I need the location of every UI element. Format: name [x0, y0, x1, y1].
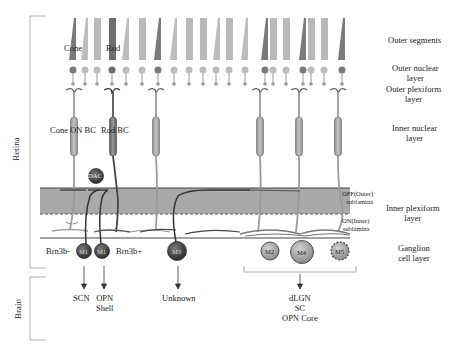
opn-shell-target: OPN Shell — [96, 293, 113, 313]
rod-6 — [270, 18, 277, 60]
m1-pos-label: M1 — [97, 248, 106, 256]
rod-5 — [226, 18, 233, 60]
outer-nuclear-label: Outer nuclear layer — [392, 63, 439, 83]
cone-9 — [299, 18, 306, 60]
cone-7 — [241, 18, 248, 60]
cone-label: Cone — [64, 43, 82, 53]
off-sublamina-label: OFF(Outer) sublamina — [342, 190, 373, 205]
brain-label: Brain — [13, 299, 23, 319]
cone-5 — [170, 18, 177, 60]
inner-plexiform-line1: Inner plexiform — [386, 203, 440, 213]
m4-label: M4 — [297, 249, 306, 257]
rod-9 — [321, 18, 328, 60]
inner-nuclear-line1: Inner nuclear — [392, 123, 437, 133]
retina-diagram: Retina Brain Cone Rod Cone ON BC Rod BC … — [0, 0, 460, 353]
m5-label: M5 — [335, 248, 344, 256]
group-target: dLGN SC OPN Core — [282, 293, 318, 323]
rod-dark — [109, 18, 116, 60]
cone-4 — [154, 18, 161, 60]
scn-target: SCN — [73, 293, 90, 303]
brn3b-neg-label: Brn3b- — [46, 246, 70, 256]
rod-1 — [94, 18, 101, 60]
opn-core-target: OPN Core — [282, 313, 318, 323]
cone-3 — [122, 18, 129, 60]
outer-nuclear-line2: layer — [392, 73, 439, 83]
off-sublamina-line2: sublamina — [342, 198, 373, 206]
rod-4 — [200, 18, 207, 60]
opn-shell-line2: Shell — [96, 303, 113, 313]
m2-label: M2 — [265, 248, 274, 256]
off-sublamina-line1: OFF(Outer) — [342, 190, 373, 198]
ganglion-layer-line2: cell layer — [398, 253, 430, 263]
cone-10 — [338, 18, 345, 60]
cone-on-bc-label: Cone ON BC — [50, 125, 96, 135]
inner-nuclear-line2: layer — [392, 133, 437, 143]
outer-plexiform-line2: layer — [386, 94, 441, 104]
m1-neg-label: M1 — [79, 248, 88, 256]
ganglion-layer-line1: Ganglion — [398, 243, 430, 253]
rod-7 — [283, 18, 290, 60]
rod-8 — [308, 18, 315, 60]
inner-plexiform-label: Inner plexiform layer — [386, 203, 440, 223]
brn3b-pos-label: Brn3b+ — [116, 246, 142, 256]
rod-3 — [186, 18, 193, 60]
group-bracket — [244, 266, 356, 272]
sc-target: SC — [282, 303, 318, 313]
outer-plexiform-line1: Outer plexiform — [386, 84, 441, 94]
outer-nuclear-line1: Outer nuclear — [392, 63, 439, 73]
on-sublamina-line2: sublamina — [342, 225, 369, 233]
retina-label: Retina — [11, 137, 21, 161]
rod-2 — [139, 18, 146, 60]
outer-segments-label: Outer segments — [388, 35, 441, 45]
unknown-target: Unknown — [162, 293, 196, 303]
inner-plexiform-line2: layer — [386, 213, 440, 223]
cone-6 — [213, 18, 220, 60]
m3-label: M3 — [172, 248, 181, 256]
cone-2 — [81, 18, 88, 60]
projection-arrows — [82, 266, 303, 289]
photoreceptor-somata — [70, 67, 346, 86]
ganglion-layer-label: Ganglion cell layer — [398, 243, 430, 263]
cone-8 — [261, 18, 268, 60]
brain-bracket — [30, 277, 46, 340]
retina-bracket — [30, 16, 46, 268]
on-sublamina-line1: ON(Inner) — [342, 217, 369, 225]
outer-plexiform-label: Outer plexiform layer — [386, 84, 441, 104]
dac-label: DAC — [88, 172, 102, 180]
rod-label: Rod — [106, 43, 120, 53]
dlgn-target: dLGN — [282, 293, 318, 303]
on-sublamina-label: ON(Inner) sublamina — [342, 217, 369, 232]
rod-bc-label: Rod BC — [101, 125, 129, 135]
inner-nuclear-label: Inner nuclear layer — [392, 123, 437, 143]
opn-shell-line1: OPN — [96, 293, 113, 303]
cone-1 — [69, 18, 76, 60]
